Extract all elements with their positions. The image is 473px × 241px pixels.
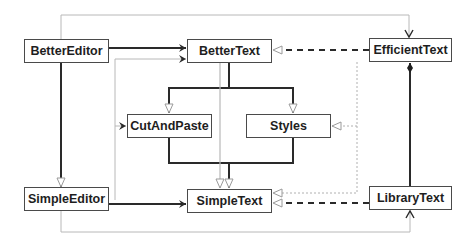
uml-class-diagram: BetterEditor BetterText EfficientText Cu… (0, 0, 473, 241)
class-label: Styles (270, 119, 307, 133)
gen-styles-simpletext (229, 138, 293, 163)
class-styles[interactable]: Styles (246, 114, 331, 138)
class-label: CutAndPaste (130, 119, 208, 133)
class-label: BetterText (199, 44, 260, 58)
gen-bettertext-styles (229, 88, 293, 113)
class-librarytext[interactable]: LibraryText (369, 186, 452, 210)
class-label: BetterEditor (30, 44, 102, 58)
class-simpletext[interactable]: SimpleText (187, 189, 272, 213)
class-label: SimpleEditor (28, 192, 105, 206)
class-simpleeditor[interactable]: SimpleEditor (24, 187, 109, 211)
class-cutandpaste[interactable]: CutAndPaste (127, 114, 212, 138)
class-efficienttext[interactable]: EfficientText (369, 38, 452, 62)
assoc-bettereditor-efficienttext (61, 15, 409, 39)
class-bettereditor[interactable]: BetterEditor (24, 39, 109, 63)
class-label: SimpleText (197, 194, 263, 208)
class-label: EfficientText (373, 43, 447, 57)
class-bettertext[interactable]: BetterText (187, 39, 272, 63)
assoc-simpleeditor-librarytext (61, 211, 410, 232)
class-label: LibraryText (377, 191, 444, 205)
